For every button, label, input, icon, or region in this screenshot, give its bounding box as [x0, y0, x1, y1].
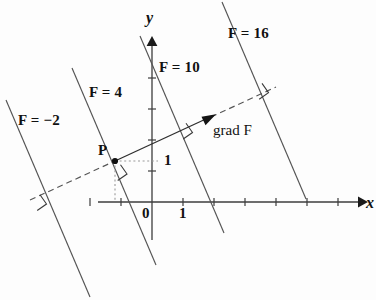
diagram-canvas — [0, 0, 376, 300]
y-unit-label: 1 — [164, 153, 172, 168]
gradient-direction-line — [30, 87, 276, 200]
point-P-marker — [112, 158, 118, 164]
contour-label-F-minus-2: F = −2 — [18, 113, 60, 128]
right-angle-mark-1 — [37, 195, 46, 211]
y-axis-arrowhead — [147, 36, 158, 46]
level-curve-F-minus-2 — [6, 100, 90, 297]
x-axis-label: x — [366, 195, 374, 211]
x-unit-label: 1 — [179, 206, 187, 221]
y-axis-label: y — [146, 10, 153, 26]
gradient-dashed-right — [211, 87, 276, 117]
point-label-P: P — [98, 143, 107, 158]
contour-label-F-10: F = 10 — [159, 60, 200, 75]
origin-label: 0 — [142, 206, 150, 221]
level-curves-group — [6, 2, 306, 297]
gradient-label: grad F — [213, 123, 252, 138]
right-angle-marks-group — [37, 83, 268, 210]
contour-label-F-16: F = 16 — [228, 26, 269, 41]
gradient-dashed-left — [30, 161, 115, 200]
gradient-level-curve-figure: F = −2 F = 4 F = 10 F = 16 P grad F y x … — [0, 0, 376, 300]
contour-label-F-4: F = 4 — [89, 85, 122, 100]
gradient-vector-shaft — [115, 118, 208, 161]
